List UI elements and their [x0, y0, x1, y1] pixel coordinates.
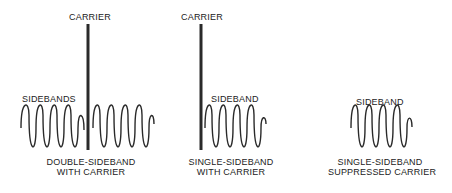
sidebands-label: SIDEBANDS	[22, 94, 76, 104]
diagram-3-title-line2: SUPPRESSED CARRIER	[328, 167, 432, 177]
diagram-1-title-line1: DOUBLE-SIDEBAND	[46, 157, 136, 167]
carrier-label-1: CARRIER	[69, 12, 111, 22]
carrier-label-2: CARRIER	[181, 12, 223, 22]
sideband-label-2: SIDEBAND	[211, 94, 259, 104]
sideband-label-3: SIDEBAND	[356, 97, 404, 107]
diagram-2-title-line2: WITH CARRIER	[188, 167, 274, 177]
upper-sideband-wave-1	[93, 105, 154, 147]
sideband-wave-2	[205, 105, 266, 147]
diagram-3-title-line1: SINGLE-SIDEBAND	[328, 157, 432, 167]
lower-sideband-wave-1	[21, 105, 84, 147]
diagram-2-title-line1: SINGLE-SIDEBAND	[188, 157, 274, 167]
sideband-wave-3	[351, 105, 412, 147]
diagram-1-title-line2: WITH CARRIER	[46, 167, 136, 177]
